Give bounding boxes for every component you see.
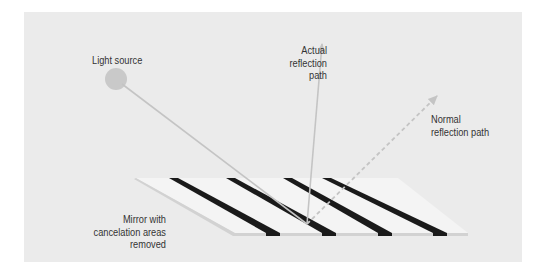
label-line: removed bbox=[69, 238, 166, 251]
stripe-edge bbox=[378, 233, 392, 236]
stripe-edge bbox=[322, 233, 336, 236]
normal-reflection-label: Normal reflection path bbox=[431, 113, 489, 138]
label-line: Mirror with bbox=[69, 213, 166, 226]
stripe-edge bbox=[266, 233, 280, 236]
mirror-label: Mirror with cancelation areas removed bbox=[69, 213, 166, 251]
light-source-label: Light source bbox=[92, 54, 142, 67]
label-line: reflection path bbox=[431, 126, 489, 139]
label-line: Actual bbox=[270, 44, 327, 57]
label-line: path bbox=[270, 69, 327, 82]
light-source-icon bbox=[105, 68, 127, 90]
stripe-edge bbox=[433, 233, 447, 236]
label-line: Normal bbox=[431, 113, 489, 126]
mirror bbox=[134, 178, 468, 236]
label-line: cancelation areas bbox=[69, 226, 166, 239]
label-line: reflection bbox=[270, 57, 327, 70]
actual-reflection-label: Actual reflection path bbox=[270, 44, 327, 82]
